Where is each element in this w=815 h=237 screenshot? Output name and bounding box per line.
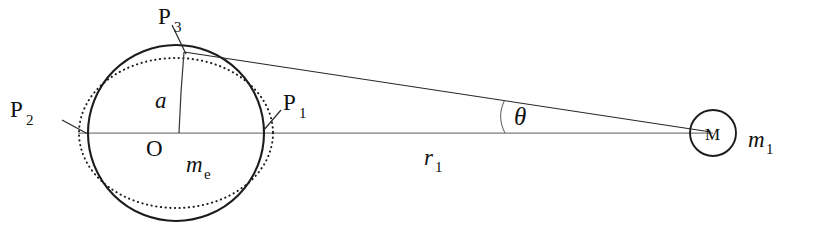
label-p3: P: [158, 4, 171, 29]
label-distance-r1: r: [424, 145, 434, 170]
label-origin-o: O: [146, 136, 163, 161]
label-p2: P: [10, 97, 23, 122]
diagram-canvas: P 3 P 2 P 1 a O m e r 1 θ M m 1: [0, 0, 815, 237]
label-earth-mass: m: [186, 152, 203, 177]
label-p1-subscript: 1: [299, 105, 307, 121]
tidal-geometry-diagram: P 3 P 2 P 1 a O m e r 1 θ M m 1: [0, 0, 815, 237]
label-satellite-m: M: [705, 125, 720, 144]
label-p3-subscript: 3: [174, 19, 182, 35]
label-angle-theta: θ: [514, 103, 526, 130]
leader-line-p2: [62, 120, 88, 134]
label-satellite-mass: m: [748, 127, 765, 152]
label-p2-subscript: 2: [26, 112, 34, 128]
label-satellite-mass-subscript: 1: [766, 141, 774, 157]
label-semi-axis-a: a: [155, 88, 167, 113]
label-earth-mass-subscript: e: [204, 166, 211, 182]
angle-arc-theta: [501, 101, 505, 134]
label-p1: P: [283, 90, 296, 115]
earth-radius-line-a: [179, 52, 184, 133]
label-distance-r1-subscript: 1: [435, 159, 443, 175]
